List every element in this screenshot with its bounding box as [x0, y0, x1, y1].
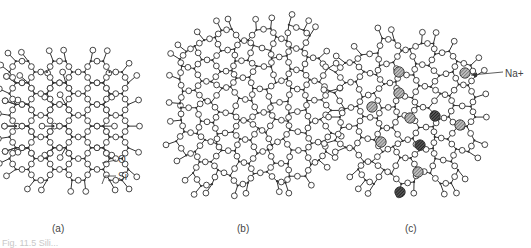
silicon-atom	[306, 100, 308, 102]
silicon-atom	[83, 114, 85, 116]
panel-b-label: (b)	[237, 223, 249, 234]
oxygen-atom	[19, 123, 25, 129]
oxygen-atom	[433, 87, 439, 93]
oxygen-atom	[231, 71, 237, 77]
oxygen-atom	[355, 140, 361, 146]
oxygen-atom	[313, 24, 319, 30]
silicon-atom	[33, 93, 35, 95]
silicon-atom	[447, 138, 449, 140]
oxygen-atom	[375, 67, 381, 73]
silicon-atom	[83, 136, 85, 138]
silicon-atom	[390, 173, 392, 175]
silicon-atom	[238, 97, 240, 99]
oxygen-atom	[432, 98, 438, 104]
oxygen-atom	[425, 41, 431, 47]
oxygen-atom	[367, 114, 373, 120]
silicon-atom	[127, 168, 129, 170]
oxygen-atom	[103, 107, 109, 113]
oxygen-atom	[214, 92, 220, 98]
silicon-atom	[71, 114, 73, 116]
oxygen-atom	[358, 163, 364, 169]
oxygen-atom	[295, 129, 301, 135]
silicon-atom	[275, 82, 277, 84]
oxygen-atom	[212, 163, 218, 169]
oxygen-atom	[103, 118, 109, 124]
oxygen-atom	[85, 129, 91, 135]
oxygen-atom	[423, 124, 429, 130]
oxygen-atom	[103, 150, 109, 156]
oxygen-atom	[271, 72, 277, 78]
silicon-atom	[183, 131, 185, 133]
silicon-atom	[248, 76, 250, 78]
oxygen-atom	[180, 52, 186, 58]
silicon-atom	[90, 82, 92, 84]
oxygen-atom	[293, 46, 299, 52]
oxygen-atom	[122, 129, 128, 135]
oxygen-atom	[394, 109, 400, 115]
oxygen-atom	[241, 160, 247, 166]
silicon-atom	[270, 102, 272, 104]
oxygen-atom	[449, 141, 455, 147]
oxygen-atom	[443, 71, 449, 77]
silicon-atom	[400, 50, 402, 52]
oxygen-atom	[276, 54, 282, 60]
silicon-atom	[185, 50, 187, 52]
oxygen-atom	[332, 155, 338, 161]
silicon-atom	[196, 133, 198, 135]
oxygen-atom	[296, 147, 302, 153]
silicon-atom	[8, 158, 10, 160]
oxygen-atom	[25, 186, 31, 192]
oxygen-atom	[66, 139, 72, 145]
oxygen-atom	[4, 74, 10, 80]
silicon-atom	[249, 139, 251, 141]
sodium-ion	[430, 111, 440, 121]
sodium-ion	[376, 137, 386, 147]
oxygen-atom	[375, 163, 381, 169]
silicon-atom	[284, 182, 286, 184]
silicon-atom	[455, 148, 457, 150]
oxygen-atom	[286, 41, 292, 47]
oxygen-atom	[19, 58, 25, 64]
oxygen-atom	[279, 117, 285, 123]
oxygen-atom	[252, 131, 258, 137]
oxygen-atom	[384, 125, 390, 131]
oxygen-atom	[213, 114, 219, 120]
oxygen-atom	[221, 170, 227, 176]
oxygen-atom	[365, 92, 371, 98]
silicon-atom	[220, 50, 222, 52]
oxygen-atom	[306, 18, 312, 24]
oxygen-atom	[225, 148, 231, 154]
oxygen-atom	[306, 144, 312, 150]
oxygen-atom	[285, 30, 291, 36]
silicon-atom	[246, 119, 248, 121]
oxygen-atom	[38, 187, 44, 193]
oxygen-atom	[167, 118, 173, 124]
oxygen-atom	[365, 191, 371, 197]
silicon-atom	[121, 136, 123, 138]
oxygen-atom	[412, 99, 418, 105]
silicon-atom	[273, 162, 275, 164]
oxygen-atom	[195, 50, 201, 56]
oxygen-atom	[431, 151, 437, 157]
oxygen-atom	[241, 38, 247, 44]
silicon-atom	[46, 93, 48, 95]
sodium-ion	[394, 88, 404, 98]
silicon-atom	[247, 182, 249, 184]
oxygen-atom	[267, 123, 273, 129]
silicon-atom	[473, 139, 475, 141]
oxygen-atom	[19, 145, 25, 151]
oxygen-atom	[103, 139, 109, 145]
oxygen-atom	[286, 71, 292, 77]
silicon-atom	[212, 122, 214, 124]
oxygen-atom	[470, 99, 476, 105]
oxygen-atom	[394, 149, 400, 155]
silicon-atom	[71, 158, 73, 160]
silicon-atom	[373, 183, 375, 185]
oxygen-atom	[275, 139, 281, 145]
oxygen-atom	[223, 85, 229, 91]
oxygen-atom	[225, 47, 231, 53]
oxygen-atom	[66, 172, 72, 178]
silicon-atom	[290, 87, 292, 89]
oxygen-atom	[28, 118, 34, 124]
oxygen-atom	[186, 105, 192, 111]
